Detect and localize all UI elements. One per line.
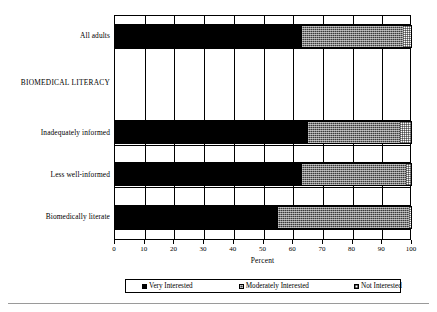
bar-segment-not-interested xyxy=(400,121,412,144)
xtick-label-100: 100 xyxy=(399,245,423,253)
xtick-label-80: 80 xyxy=(340,245,364,253)
xtick-mark-80 xyxy=(352,240,353,244)
bar-segment-very-interested xyxy=(115,163,302,186)
chart-figure: All adults BIOMEDICAL LITERACY Inadequat… xyxy=(0,0,437,312)
xtick-mark-10 xyxy=(144,240,145,244)
bar-segment-very-interested xyxy=(115,206,278,229)
xtick-mark-70 xyxy=(322,240,323,244)
xtick-mark-50 xyxy=(263,240,264,244)
bar-segment-very-interested xyxy=(115,25,302,48)
x-axis-title: Percent xyxy=(114,256,411,265)
xtick-mark-40 xyxy=(233,240,234,244)
bar-segment-not-interested xyxy=(406,163,412,186)
xtick-mark-20 xyxy=(173,240,174,244)
category-label-biomedically-literate: Biomedically literate xyxy=(46,212,110,221)
category-label-all-adults: All adults xyxy=(80,31,110,40)
rowline-2 xyxy=(115,48,410,49)
xtick-mark-60 xyxy=(292,240,293,244)
bar-less-well-informed xyxy=(115,163,412,186)
xtick-label-20: 20 xyxy=(161,245,185,253)
xtick-label-90: 90 xyxy=(369,245,393,253)
legend-label-very-interested: Very Interested xyxy=(149,282,193,290)
xtick-label-50: 50 xyxy=(251,245,275,253)
category-label-less-well-informed: Less well-informed xyxy=(51,170,110,179)
xtick-mark-100 xyxy=(411,240,412,244)
xtick-label-0: 0 xyxy=(102,245,126,253)
legend-label-moderately-interested: Moderately Interested xyxy=(246,282,309,290)
legend-item-not-interested: Not Interested xyxy=(354,282,402,290)
bar-inadequately-informed xyxy=(115,121,412,144)
xtick-mark-90 xyxy=(381,240,382,244)
legend-swatch-moderately-interested-icon xyxy=(239,284,244,289)
xtick-label-10: 10 xyxy=(132,245,156,253)
chart-legend: Very Interested Moderately Interested No… xyxy=(125,279,401,293)
legend-label-not-interested: Not Interested xyxy=(361,282,402,290)
legend-swatch-not-interested-icon xyxy=(354,284,359,289)
xtick-label-40: 40 xyxy=(221,245,245,253)
plot-area xyxy=(114,15,411,240)
bar-segment-not-interested xyxy=(403,25,412,48)
legend-item-moderately-interested: Moderately Interested xyxy=(239,282,309,290)
bar-segment-moderately-interested xyxy=(278,206,409,229)
bar-segment-not-interested xyxy=(409,206,412,229)
rowline-4 xyxy=(115,145,410,146)
bar-segment-moderately-interested xyxy=(302,25,403,48)
xtick-label-70: 70 xyxy=(310,245,334,253)
category-label-inadequately-informed: Inadequately informed xyxy=(41,128,110,137)
bar-segment-moderately-interested xyxy=(302,163,406,186)
rowline-6 xyxy=(115,187,410,188)
rowline-8 xyxy=(115,229,410,230)
bar-segment-moderately-interested xyxy=(308,121,400,144)
xtick-label-30: 30 xyxy=(191,245,215,253)
footer-divider xyxy=(8,303,429,304)
bar-segment-very-interested xyxy=(115,121,308,144)
xtick-label-60: 60 xyxy=(280,245,304,253)
legend-item-very-interested: Very Interested xyxy=(142,282,193,290)
group-label-biomedical-literacy: BIOMEDICAL LITERACY xyxy=(21,78,110,87)
xtick-mark-30 xyxy=(203,240,204,244)
bar-biomedically-literate xyxy=(115,206,412,229)
xtick-mark-0 xyxy=(114,240,115,244)
legend-swatch-very-interested-icon xyxy=(142,284,147,289)
bar-all-adults xyxy=(115,25,412,48)
